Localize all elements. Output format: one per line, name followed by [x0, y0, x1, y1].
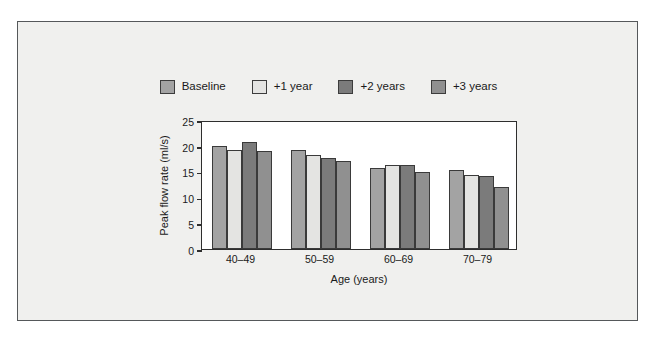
bar-group [202, 122, 281, 249]
bar [306, 155, 321, 249]
bar [227, 150, 242, 249]
bar [336, 161, 351, 249]
bar-group [439, 122, 518, 249]
bars-layer [202, 122, 516, 249]
legend-item: +2 years [338, 80, 404, 94]
bar [400, 165, 415, 249]
bar [415, 172, 430, 249]
bar [212, 146, 227, 249]
bar [321, 158, 336, 249]
legend-item: Baseline [160, 80, 226, 94]
legend-swatch-icon [338, 80, 353, 94]
y-tick-label: 25 [182, 117, 194, 128]
legend-item: +1 year [252, 80, 313, 94]
bar [464, 175, 479, 249]
legend-label: +1 year [274, 81, 313, 93]
y-axis-title-text: Peak flow rate (ml/s) [159, 135, 170, 235]
bar [479, 176, 494, 249]
y-axis-title: Peak flow rate (ml/s) [157, 121, 171, 250]
legend-swatch-icon [252, 80, 267, 94]
bar [257, 151, 272, 249]
legend-label: +3 years [453, 81, 497, 93]
x-tick-label: 60–69 [384, 254, 413, 265]
x-axis-ticks: 40–4950–5960–6970–79 [201, 254, 517, 268]
legend-label: +2 years [360, 81, 404, 93]
chart-legend: Baseline+1 year+2 years+3 years [18, 80, 639, 94]
legend-swatch-icon [160, 80, 175, 94]
y-tick-label: 0 [188, 246, 194, 257]
y-tick-mark [197, 250, 202, 252]
plot-area: 0510152025 [201, 121, 517, 250]
bar-group [360, 122, 439, 249]
x-tick-label: 40–49 [226, 254, 255, 265]
legend-label: Baseline [182, 81, 226, 93]
bar [370, 168, 385, 249]
y-tick-label: 15 [182, 168, 194, 179]
bar [449, 170, 464, 249]
bar [291, 150, 306, 249]
y-tick-label: 10 [182, 194, 194, 205]
y-tick-label: 20 [182, 143, 194, 154]
bar [242, 142, 257, 249]
figure-frame: Baseline+1 year+2 years+3 years Peak flo… [17, 21, 638, 321]
legend-swatch-icon [431, 80, 446, 94]
bar [494, 187, 509, 249]
x-tick-label: 70–79 [463, 254, 492, 265]
x-tick-label: 50–59 [305, 254, 334, 265]
legend-item: +3 years [431, 80, 497, 94]
y-tick-label: 5 [188, 220, 194, 231]
bar [385, 165, 400, 249]
bar-group [281, 122, 360, 249]
figure-root: Baseline+1 year+2 years+3 years Peak flo… [0, 0, 656, 342]
x-axis-title: Age (years) [201, 274, 517, 285]
